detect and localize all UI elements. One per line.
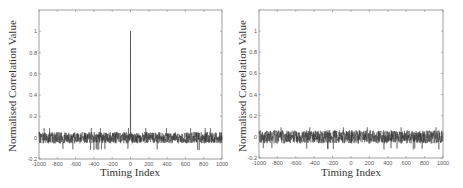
- y-tick-label: 0: [34, 135, 37, 141]
- y-tick-label: 1: [34, 28, 37, 34]
- y-tick-label: 0.8: [249, 49, 257, 55]
- y-tick-label: 0.6: [249, 70, 257, 76]
- x-tick-label: 1000: [216, 161, 228, 167]
- y-tick-label: 0.6: [29, 71, 37, 77]
- left-y-axis-label: Normalised Correlation Value: [6, 20, 18, 152]
- x-tick-label: 800: [199, 161, 208, 167]
- y-tick-label: 0.8: [29, 50, 37, 56]
- y-tick-label: 0.2: [29, 113, 37, 119]
- right-y-axis-label: Normalised Correlation Value: [236, 20, 248, 152]
- x-tick-label: 1000: [437, 160, 449, 166]
- y-tick-label: 0.2: [249, 113, 257, 119]
- x-tick-label: 600: [402, 160, 411, 166]
- y-tick-label: 0: [254, 134, 257, 140]
- x-tick-label: 600: [181, 161, 190, 167]
- left-x-axis-label: Timing Index: [90, 166, 170, 178]
- y-tick-label: -0.2: [248, 155, 257, 161]
- x-tick-label: -800: [272, 160, 283, 166]
- y-tick-label: 0.4: [29, 92, 37, 98]
- y-tick-label: 1: [254, 28, 257, 34]
- y-tick-label: -0.2: [28, 156, 37, 162]
- x-tick-label: -600: [70, 161, 81, 167]
- left-chart-panel: -1000-800-600-400-20002004006008001000-0…: [0, 0, 231, 188]
- y-tick-label: 0.4: [249, 92, 257, 98]
- right-x-axis-label: Timing Index: [311, 166, 391, 178]
- x-tick-label: -600: [290, 160, 301, 166]
- x-tick-label: 800: [420, 160, 429, 166]
- left-chart-plot: -1000-800-600-400-20002004006008001000-0…: [0, 0, 231, 188]
- right-chart-panel: -1000-800-600-400-20002004006008001000-0…: [231, 0, 463, 188]
- right-chart-plot: -1000-800-600-400-20002004006008001000-0…: [231, 0, 463, 188]
- x-tick-label: -800: [52, 161, 63, 167]
